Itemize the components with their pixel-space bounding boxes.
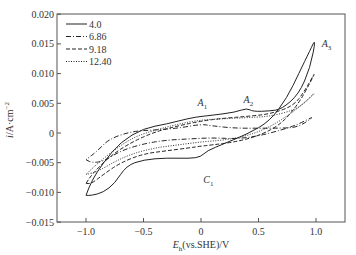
- y-tick-label: 0.005: [32, 98, 55, 109]
- x-tick-label: 0.5: [252, 226, 265, 237]
- y-tick-label: −0.005: [26, 157, 54, 168]
- x-axis-title: Eh(vs.SHE)/V: [172, 239, 230, 253]
- x-tick-label: 1.0: [310, 226, 323, 237]
- legend-label: 9.18: [89, 44, 107, 55]
- y-tick-label: −0.015: [26, 217, 54, 228]
- plot-curves: [86, 42, 315, 195]
- series-6.86: [86, 118, 312, 163]
- y-axis: 0.0200.0150.0100.0050−0.005−0.010−0.015: [26, 9, 61, 228]
- chart: 0.0200.0150.0100.0050−0.005−0.010−0.015 …: [0, 0, 356, 255]
- y-axis-title: i/A·cm−2: [3, 102, 15, 138]
- series-4.0: [86, 42, 315, 195]
- x-axis: −1.0−0.500.51.0: [77, 218, 322, 237]
- x-tick-label: −0.5: [134, 226, 152, 237]
- legend-label: 12.40: [89, 56, 112, 67]
- y-tick-label: −0.010: [26, 187, 54, 198]
- legend: 4.06.869.1812.40: [66, 19, 112, 68]
- x-tick-label: −1.0: [77, 226, 95, 237]
- legend-label: 4.0: [89, 19, 102, 30]
- x-tick-label: 0: [199, 226, 204, 237]
- annotation-A3: A3: [321, 38, 332, 52]
- y-tick-label: 0.015: [32, 38, 55, 49]
- annotation-A1: A1: [197, 97, 208, 111]
- annotation-A2: A2: [243, 94, 254, 108]
- y-tick-label: 0.010: [32, 68, 55, 79]
- legend-label: 6.86: [89, 31, 107, 42]
- y-tick-label: 0: [49, 128, 54, 139]
- y-tick-label: 0.020: [32, 9, 55, 20]
- annotation-C1: C1: [203, 174, 214, 188]
- series-9.18: [86, 74, 314, 183]
